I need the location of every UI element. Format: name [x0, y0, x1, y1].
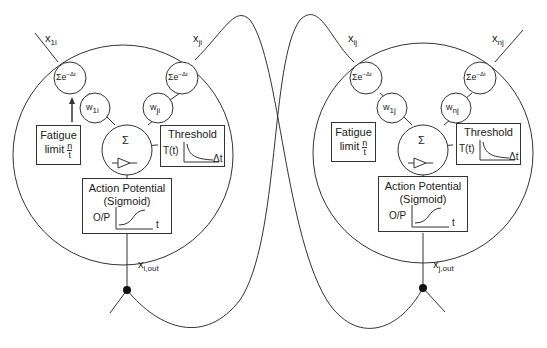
- summation-i: Σ: [122, 134, 129, 146]
- integrator-1j: Σe−Δt: [352, 71, 372, 82]
- weight-nj: wnj: [446, 102, 459, 115]
- threshold-box-i: Threshold T(t) Δt: [160, 125, 225, 167]
- neuron-diagram: x1i xji Σe−Δt Σe−Δt w1i wji Σ Fatigue li…: [0, 0, 547, 348]
- fatigue-box-i: Fatigue limit nt: [36, 125, 81, 165]
- input-label-x1i: x1i: [45, 32, 57, 49]
- synapse-dot-j: [419, 284, 427, 292]
- output-label-j: xj,out: [433, 258, 454, 275]
- input-label-xnj: xnj: [492, 32, 504, 49]
- threshold-box-j: Threshold T(t) Δt: [456, 123, 521, 165]
- weight-1j: w1j: [383, 102, 396, 115]
- action-potential-box-j: Action Potential (Sigmoid) O/P t: [378, 176, 468, 232]
- synapse-dot-i: [123, 286, 131, 294]
- integrator-ji: Σe−Δt: [168, 71, 188, 82]
- weight-1i: w1i: [86, 102, 99, 115]
- input-label-xji: xji: [193, 32, 202, 49]
- integrator-1i: Σe−Δt: [56, 71, 76, 82]
- connection-lines: [0, 0, 547, 348]
- integrator-nj: Σe−Δt: [466, 71, 486, 82]
- summation-j: Σ: [418, 134, 425, 146]
- output-label-i: xi,out: [138, 258, 159, 275]
- input-label-xij: xij: [348, 32, 357, 49]
- weight-ji: wji: [150, 102, 160, 115]
- action-potential-box-i: Action Potential (Sigmoid) O/P t: [82, 178, 172, 234]
- fatigue-box-j: Fatigue limit nt: [331, 122, 376, 162]
